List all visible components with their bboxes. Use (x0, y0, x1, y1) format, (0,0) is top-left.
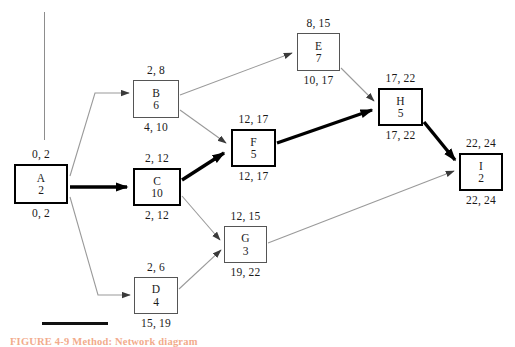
node-g-id: G (241, 232, 249, 244)
node-f-duration: 5 (251, 148, 257, 160)
node-a[interactable]: A2 (14, 164, 68, 204)
node-a-early-times: 0, 2 (32, 148, 50, 160)
node-a-late-times: 0, 2 (32, 207, 50, 219)
node-b-id: B (152, 87, 160, 99)
node-e-duration: 7 (316, 52, 322, 64)
node-d-early-times: 2, 6 (147, 261, 165, 273)
node-f-late-times: 12, 17 (239, 170, 269, 182)
node-g-early-times: 12, 15 (231, 210, 261, 222)
node-b-late-times: 4, 10 (144, 121, 168, 133)
node-h-id: H (396, 95, 404, 107)
node-h-late-times: 17, 22 (386, 129, 416, 141)
node-a-id: A (37, 172, 45, 184)
node-b-duration: 6 (153, 99, 159, 111)
node-e-late-times: 10, 17 (304, 74, 334, 86)
node-g[interactable]: G3 (224, 226, 267, 263)
page-rule-vertical (44, 12, 45, 140)
edge-a-d (70, 197, 130, 295)
node-a-duration: 2 (38, 184, 44, 196)
edge-c-f (182, 153, 224, 180)
edge-g-i (268, 171, 454, 243)
node-d-duration: 4 (153, 296, 159, 308)
node-b[interactable]: B6 (133, 80, 179, 118)
edge-d-g (179, 250, 221, 289)
node-c-duration: 10 (151, 187, 163, 199)
node-i-id: I (479, 160, 483, 172)
page-rule-horizontal (42, 322, 108, 325)
node-f-early-times: 12, 17 (239, 113, 269, 125)
node-d-id: D (152, 283, 160, 295)
node-c-early-times: 2, 12 (145, 152, 169, 164)
node-c-id: C (153, 175, 161, 187)
node-f[interactable]: F5 (231, 129, 276, 167)
node-c-late-times: 2, 12 (145, 209, 169, 221)
node-f-id: F (250, 136, 256, 148)
node-g-late-times: 19, 22 (231, 266, 261, 278)
node-e-id: E (315, 40, 322, 52)
node-i-duration: 2 (478, 172, 484, 184)
edge-h-i (424, 122, 455, 160)
node-e[interactable]: E7 (297, 33, 340, 71)
figure-caption: FIGURE 4-9 Method: Network diagram (10, 336, 198, 347)
node-d[interactable]: D4 (134, 277, 178, 314)
node-i-early-times: 22, 24 (466, 137, 496, 149)
node-h[interactable]: H5 (378, 88, 423, 126)
node-h-duration: 5 (398, 107, 404, 119)
node-d-late-times: 15, 19 (141, 317, 171, 329)
edge-a-b (70, 93, 129, 176)
edge-c-g (182, 196, 220, 240)
node-e-early-times: 8, 15 (307, 17, 331, 29)
node-i[interactable]: I2 (459, 153, 503, 191)
edge-b-e (180, 53, 292, 95)
edge-b-f (180, 110, 226, 143)
node-i-late-times: 22, 24 (466, 194, 496, 206)
node-h-early-times: 17, 22 (386, 72, 416, 84)
node-c[interactable]: C10 (133, 168, 181, 206)
edge-e-h (341, 68, 374, 101)
edge-f-h (277, 110, 372, 143)
node-g-duration: 3 (243, 245, 249, 257)
node-b-early-times: 2, 8 (147, 64, 165, 76)
